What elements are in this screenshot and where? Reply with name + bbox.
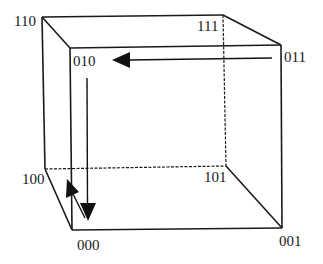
edge-000-001 [72, 228, 282, 230]
arrow-011-to-010 [112, 52, 272, 68]
edge-011-001 [281, 45, 282, 228]
edge-101-001 [226, 166, 282, 228]
label-000: 000 [77, 237, 100, 253]
edge-110-010 [42, 17, 70, 48]
label-010: 010 [73, 53, 96, 69]
edge-110-100 [42, 17, 45, 169]
label-110: 110 [14, 13, 36, 29]
arrowhead-left-icon [112, 52, 130, 68]
edge-100-000 [45, 169, 72, 230]
label-101: 101 [204, 169, 227, 185]
edge-110-111 [42, 15, 223, 17]
label-011: 011 [284, 49, 306, 65]
edge-010-000 [70, 48, 72, 230]
label-111: 111 [197, 18, 218, 34]
arrow-010-to-000 [80, 78, 96, 221]
edge-111-011 [223, 15, 281, 45]
label-100: 100 [22, 171, 45, 187]
label-001: 001 [279, 233, 302, 249]
edge-010-011 [70, 45, 281, 48]
arrow-000-to-100 [66, 179, 85, 218]
edge-100-101-hidden [45, 166, 226, 169]
cube-diagram: 110 111 010 011 100 101 000 001 [0, 0, 323, 264]
arrowhead-up-left-icon [66, 179, 79, 198]
edge-111-101-hidden [223, 15, 226, 166]
